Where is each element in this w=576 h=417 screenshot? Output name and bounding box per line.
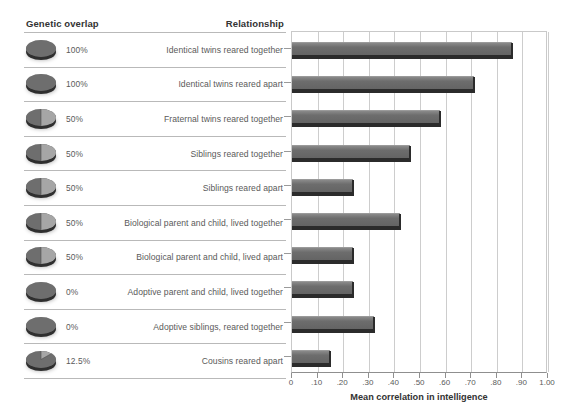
axis-tick-label: .40 <box>388 378 399 387</box>
axis-tick-label: .80 <box>490 378 501 387</box>
bar-row <box>292 271 548 305</box>
genetic-overlap-percent: 50% <box>66 149 102 159</box>
genetic-overlap-percent: 0% <box>66 322 102 332</box>
relationship-label: Identical twins reared apart <box>102 79 286 89</box>
row-tick <box>284 48 291 49</box>
table-row: 0%Adoptive parent and child, lived toget… <box>24 275 286 310</box>
table-body: 100%Identical twins reared together100%I… <box>24 32 286 379</box>
genetic-overlap-percent: 0% <box>66 287 102 297</box>
genetic-overlap-cell <box>24 142 66 166</box>
bar-row <box>292 135 548 169</box>
genetic-overlap-cell <box>24 211 66 235</box>
gridline <box>548 32 549 372</box>
table-row: 0%Adoptive siblings, reared together <box>24 310 286 345</box>
axis-tick-label: 1.00 <box>539 378 555 387</box>
row-tick <box>284 219 291 220</box>
table-header-row: Genetic overlap Relationship <box>24 8 286 32</box>
bar <box>292 179 353 192</box>
bar <box>292 247 353 260</box>
genetic-overlap-percent: 50% <box>66 252 102 262</box>
genetic-overlap-percent: 50% <box>66 183 102 193</box>
relationship-table: Genetic overlap Relationship 100%Identic… <box>24 8 286 373</box>
bar-row <box>292 203 548 237</box>
bar <box>292 76 474 89</box>
genetic-overlap-cell <box>24 245 66 269</box>
relationship-label: Identical twins reared together <box>102 45 286 55</box>
pie-chart-icon <box>26 211 56 235</box>
relationship-label: Adoptive siblings, reared together <box>102 322 286 332</box>
bar <box>292 145 410 158</box>
bar <box>292 281 353 294</box>
bar-row <box>292 32 548 66</box>
bar <box>292 213 400 226</box>
row-tick <box>284 185 291 186</box>
relationship-label: Cousins reared apart <box>102 356 286 366</box>
bar-row <box>292 66 548 100</box>
pie-chart-icon <box>26 142 56 166</box>
axis-tick-label: .90 <box>516 378 527 387</box>
pie-chart-icon <box>26 349 56 373</box>
bar-chart <box>291 31 547 373</box>
table-row: 50%Fraternal twins reared together <box>24 102 286 137</box>
bar-row <box>292 306 548 340</box>
x-axis-title: Mean correlation in intelligence <box>291 392 547 402</box>
relationship-label: Biological parent and child, lived apart <box>102 252 286 262</box>
pie-chart-icon <box>26 280 56 304</box>
genetic-overlap-cell <box>24 107 66 131</box>
relationship-label: Adoptive parent and child, lived togethe… <box>102 287 286 297</box>
relationship-label: Siblings reared together <box>102 149 286 159</box>
genetic-overlap-cell <box>24 72 66 96</box>
genetic-overlap-cell <box>24 176 66 200</box>
relationship-label: Biological parent and child, lived toget… <box>102 218 286 228</box>
row-tick <box>284 253 291 254</box>
axis-tick-label: .70 <box>465 378 476 387</box>
genetic-overlap-cell <box>24 280 66 304</box>
row-tick <box>284 356 291 357</box>
table-row: 50%Biological parent and child, lived ap… <box>24 241 286 276</box>
bar <box>292 42 512 55</box>
pie-chart-icon <box>26 38 56 62</box>
table-row: 50%Siblings reared together <box>24 137 286 172</box>
pie-chart-icon <box>26 107 56 131</box>
axis-tick-label: .60 <box>439 378 450 387</box>
axis-tick-label: .20 <box>337 378 348 387</box>
pie-chart-icon <box>26 72 56 96</box>
pie-chart-icon <box>26 245 56 269</box>
table-row: 12.5%Cousins reared apart <box>24 344 286 379</box>
axis-tick-label: .10 <box>311 378 322 387</box>
row-tick <box>284 151 291 152</box>
table-row: 100%Identical twins reared together <box>24 33 286 68</box>
row-tick <box>284 82 291 83</box>
genetic-overlap-cell <box>24 349 66 373</box>
plot-area <box>291 31 547 373</box>
column-header-relationship: Relationship <box>226 18 284 29</box>
relationship-label: Fraternal twins reared together <box>102 114 286 124</box>
genetic-overlap-cell <box>24 315 66 339</box>
bar-row <box>292 100 548 134</box>
genetic-overlap-cell <box>24 38 66 62</box>
bar <box>292 110 440 123</box>
genetic-overlap-percent: 100% <box>66 79 102 89</box>
table-row: 100%Identical twins reared apart <box>24 68 286 103</box>
genetic-overlap-percent: 12.5% <box>66 356 102 366</box>
table-row: 50%Biological parent and child, lived to… <box>24 206 286 241</box>
axis-tick-label: .50 <box>413 378 424 387</box>
genetic-overlap-percent: 50% <box>66 218 102 228</box>
genetic-overlap-percent: 50% <box>66 114 102 124</box>
pie-chart-icon <box>26 315 56 339</box>
bar-row <box>292 169 548 203</box>
row-tick <box>284 287 291 288</box>
bar-row <box>292 237 548 271</box>
row-tick <box>284 116 291 117</box>
axis-tick-label: 0 <box>289 378 293 387</box>
row-tick <box>284 322 291 323</box>
x-axis: Mean correlation in intelligence 0.10.20… <box>291 373 547 417</box>
column-header-genetic-overlap: Genetic overlap <box>26 18 99 29</box>
genetic-overlap-percent: 100% <box>66 45 102 55</box>
axis-tick-label: .30 <box>362 378 373 387</box>
bar-row <box>292 340 548 374</box>
bar <box>292 316 374 329</box>
table-row: 50%Siblings reared apart <box>24 171 286 206</box>
genetic-overlap-intelligence-figure: Genetic overlap Relationship 100%Identic… <box>0 0 576 417</box>
pie-chart-icon <box>26 176 56 200</box>
